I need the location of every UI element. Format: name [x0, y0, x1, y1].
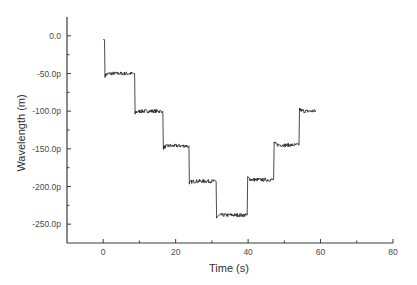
axes: 020406080 0.0-50.0p-100.0p-150.0p-200.0p… [32, 17, 398, 257]
y-axis-ticks: 0.0-50.0p-100.0p-150.0p-200.0p-250.0p [32, 31, 71, 229]
y-tick-label: -250.0p [32, 219, 61, 229]
x-tick-label: 20 [171, 247, 181, 257]
y-tick-label: 0.0 [49, 31, 61, 41]
x-tick-label: 60 [316, 247, 326, 257]
x-tick-label: 0 [101, 247, 106, 257]
x-axis-title: Time (s) [209, 262, 249, 274]
y-tick-label: -200.0p [32, 182, 61, 192]
wavelength-time-chart: 020406080 0.0-50.0p-100.0p-150.0p-200.0p… [0, 0, 417, 285]
x-tick-label: 80 [388, 247, 398, 257]
plot-area [103, 40, 316, 219]
x-axis-ticks: 020406080 [101, 239, 398, 257]
wavelength-trace [103, 40, 316, 219]
y-tick-label: -100.0p [32, 106, 61, 116]
x-tick-label: 40 [243, 247, 253, 257]
y-tick-label: -150.0p [32, 144, 61, 154]
y-tick-label: -50.0p [37, 69, 61, 79]
y-axis-title: Wavelength (m) [15, 94, 27, 171]
